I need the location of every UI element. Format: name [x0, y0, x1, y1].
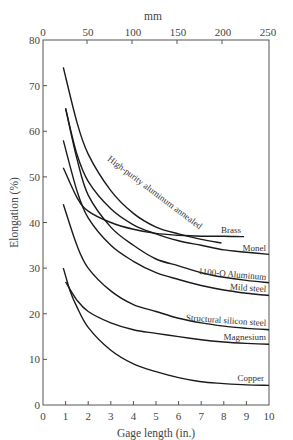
y-axis-title: Elongation (%): [8, 177, 21, 248]
curve-label-high-purity-aluminum-annealed: High-purity aluminum annealed: [106, 154, 205, 232]
plot-frame: [43, 40, 269, 405]
x-axis-title: Gage length (in.): [117, 427, 195, 440]
curve-label-1100-o-aluminum: 1100-O Aluminum: [198, 266, 267, 282]
x-tick-label: 4: [131, 410, 137, 422]
x2-tick-label: 100: [125, 26, 142, 38]
y-tick-label: 30: [29, 262, 41, 274]
x2-axis-title: mm: [144, 10, 162, 22]
x-tick-label: 7: [198, 410, 204, 422]
x-tick-label: 9: [244, 410, 250, 422]
elongation-chart: 0123456789100501001502002500102030405060…: [0, 0, 293, 440]
curve-structural-silicon-steel: [63, 204, 269, 330]
y-tick-label: 40: [29, 217, 41, 229]
x2-tick-label: 200: [215, 26, 232, 38]
x-tick-label: 2: [85, 410, 91, 422]
x-tick-label: 1: [63, 410, 69, 422]
y-tick-label: 50: [29, 171, 41, 183]
y-tick-label: 60: [29, 125, 41, 137]
x-tick-label: 10: [264, 410, 276, 422]
x2-tick-label: 250: [260, 26, 277, 38]
curve-label-monel: Monel: [243, 243, 267, 253]
x-tick-label: 5: [153, 410, 159, 422]
x-tick-label: 8: [221, 410, 227, 422]
y-tick-label: 80: [29, 34, 41, 46]
y-tick-label: 10: [29, 353, 41, 365]
curve-label-magnesium: Magnesium: [224, 332, 267, 342]
x-tick-label: 3: [108, 410, 114, 422]
x-tick-label: 6: [176, 410, 182, 422]
x2-tick-label: 150: [170, 26, 187, 38]
x2-tick-label: 0: [40, 26, 46, 38]
y-tick-label: 20: [29, 308, 41, 320]
curve-label-copper: Copper: [238, 373, 265, 383]
curve-label-brass: Brass: [221, 225, 241, 235]
y-tick-label: 0: [35, 399, 41, 411]
x2-tick-label: 50: [83, 26, 95, 38]
y-tick-label: 70: [29, 80, 41, 92]
curve-label-structural-silicon-steel: Structural silicon steel: [186, 312, 267, 328]
x-tick-label: 0: [40, 410, 46, 422]
